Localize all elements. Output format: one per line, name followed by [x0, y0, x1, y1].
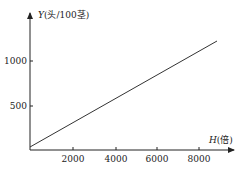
line-chart: 2000 4000 6000 8000 500 1000 Y(头/100茎) H…	[0, 0, 246, 172]
x-tick-label: 6000	[146, 154, 169, 164]
x-tick-label: 8000	[188, 154, 211, 164]
x-tick-label: 4000	[105, 154, 128, 164]
x-tick-label: 2000	[62, 154, 85, 164]
x-axis-label: H(倍)	[208, 134, 233, 145]
y-tick-label: 1000	[4, 56, 27, 66]
y-axis-label: Y(头/100茎)	[38, 9, 89, 20]
y-tick-label: 500	[10, 101, 27, 111]
data-line	[30, 41, 217, 147]
